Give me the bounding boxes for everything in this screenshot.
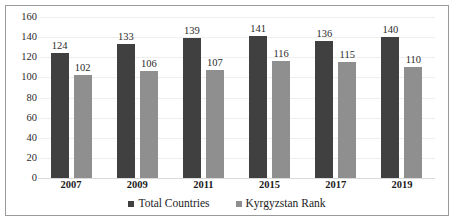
bar-group: 139107: [183, 17, 224, 178]
bar-total-countries: [381, 37, 399, 178]
y-axis-tick-label: 120: [21, 52, 37, 63]
bar-total-countries: [183, 38, 201, 178]
bar-kyrgyzstan-rank: [272, 61, 290, 178]
bar-value-label: 110: [406, 55, 421, 66]
bar-value-label: 133: [118, 32, 134, 43]
x-axis-tick-label: 2007: [61, 180, 82, 191]
legend-label: Kyrgyzstan Rank: [246, 198, 326, 210]
x-axis-tick-label: 2009: [127, 180, 148, 191]
x-axis-tick-label: 2011: [193, 180, 213, 191]
bar-kyrgyzstan-rank: [140, 71, 158, 178]
y-axis-tick-label: 160: [21, 12, 37, 23]
bar-group: 124102: [51, 17, 92, 178]
bar-group: 141116: [249, 17, 290, 178]
legend-label: Total Countries: [138, 198, 209, 210]
bar-value-label: 102: [75, 63, 91, 74]
bar-value-label: 140: [383, 25, 399, 36]
bar-value-label: 106: [141, 59, 157, 70]
bar-value-label: 115: [340, 50, 355, 61]
legend-swatch-icon: [128, 201, 134, 207]
x-axis-category-labels: 200720092011201520172019: [38, 180, 435, 196]
bar-kyrgyzstan-rank: [338, 62, 356, 178]
bar-chart-figure: 020406080100120140160 124102133106139107…: [5, 5, 449, 216]
y-axis-tick-label: 100: [21, 72, 37, 83]
y-axis-tick-label: 0: [32, 173, 37, 184]
bar-total-countries: [117, 44, 135, 178]
bar-value-label: 141: [250, 24, 266, 35]
bar-kyrgyzstan-rank: [404, 67, 422, 178]
bar-kyrgyzstan-rank: [74, 75, 92, 178]
y-axis-tick-label: 80: [27, 92, 38, 103]
y-axis-tick-label: 60: [27, 112, 38, 123]
y-axis-tick-label: 140: [21, 32, 37, 43]
bar-value-label: 116: [273, 49, 288, 60]
bar-value-label: 139: [184, 26, 200, 37]
bar-group: 133106: [117, 17, 158, 178]
bar-series-layer: 124102133106139107141116136115140110: [38, 17, 435, 178]
plot-area: 124102133106139107141116136115140110: [38, 17, 435, 178]
bar-value-label: 107: [207, 58, 223, 69]
bar-value-label: 136: [316, 29, 332, 40]
legend-item-kyrgyzstan-rank[interactable]: Kyrgyzstan Rank: [236, 198, 326, 210]
x-axis-tick-label: 2015: [259, 180, 280, 191]
bar-group: 140110: [381, 17, 422, 178]
legend-swatch-icon: [236, 201, 242, 207]
bar-total-countries: [51, 53, 69, 178]
x-axis-tick-label: 2017: [325, 180, 346, 191]
bar-group: 136115: [315, 17, 356, 178]
chart-legend: Total CountriesKyrgyzstan Rank: [6, 198, 448, 210]
legend-item-total-countries[interactable]: Total Countries: [128, 198, 209, 210]
bar-kyrgyzstan-rank: [206, 70, 224, 178]
y-axis-tick-label: 40: [27, 133, 38, 144]
x-axis-tick-label: 2019: [391, 180, 412, 191]
bar-total-countries: [249, 36, 267, 178]
bar-value-label: 124: [52, 41, 68, 52]
y-axis-tick-labels: 020406080100120140160: [11, 17, 37, 178]
bar-total-countries: [315, 41, 333, 178]
gridline: [38, 178, 435, 179]
y-axis-tick-label: 20: [27, 153, 38, 164]
